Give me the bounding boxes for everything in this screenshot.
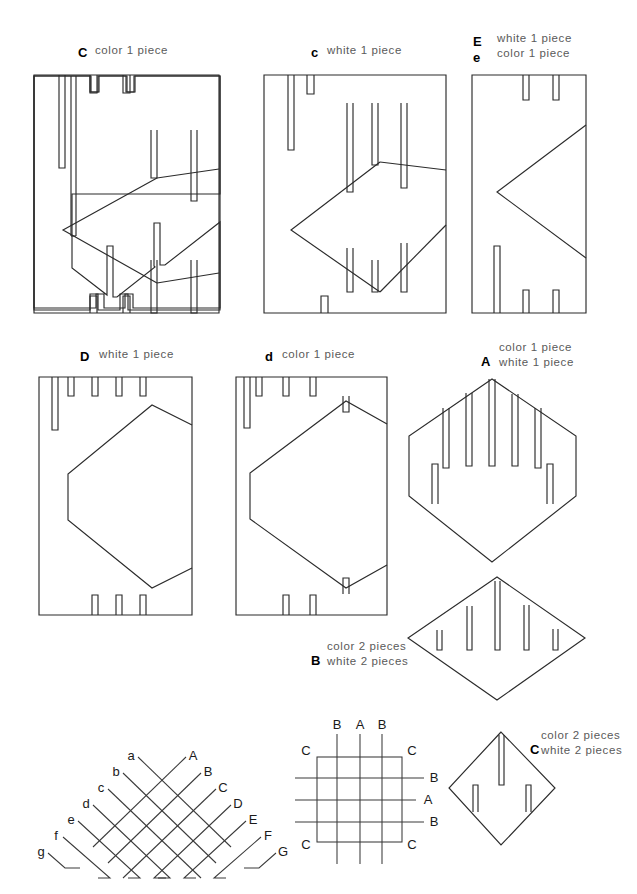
weave-label-a: a [127, 748, 135, 763]
weave-label-g: g [37, 844, 44, 859]
finished-grid-diagram: B A B C C C C B A B [285, 712, 445, 887]
piece-key-B: B [311, 653, 320, 668]
piece-key-c-lower: c [311, 45, 318, 60]
piece-key-C-upper: C [78, 45, 87, 60]
piece-key-e: e [473, 50, 480, 65]
piece-key-E: E [473, 34, 482, 49]
piece-spec-B-2: white 2 pieces [327, 655, 408, 669]
grid-right-label-1: B [430, 770, 439, 785]
piece-E-e [468, 70, 603, 318]
weave-label-A: A [189, 748, 198, 763]
piece-B [402, 572, 602, 702]
weave-assembly-diagram: a b c d e f g A B C D E F G [20, 735, 300, 885]
weave-label-B: B [204, 764, 213, 779]
grid-corner-label-bl: C [301, 837, 310, 852]
grid-corner-label-tl: C [301, 743, 310, 758]
piece-spec-e: color 1 piece [497, 47, 570, 61]
weave-label-D: D [233, 796, 242, 811]
grid-right-label-3: B [430, 814, 439, 829]
piece-spec-C-upper: color 1 piece [95, 44, 168, 58]
weave-label-e: e [67, 812, 74, 827]
grid-top-label-2: A [356, 717, 365, 732]
piece-key-d: d [265, 349, 273, 364]
grid-top-label-1: B [333, 717, 342, 732]
weave-label-d: d [82, 796, 89, 811]
piece-key-A: A [481, 354, 490, 369]
grid-corner-label-tr: C [407, 743, 416, 758]
piece-spec-A-2: white 1 piece [499, 356, 574, 370]
piece-spec-c-lower: white 1 piece [327, 44, 402, 58]
piece-C-small [443, 727, 563, 857]
piece-D [35, 372, 205, 620]
weave-label-F: F [264, 828, 272, 843]
piece-spec-D: white 1 piece [99, 348, 174, 362]
grid-top-label-3: B [378, 717, 387, 732]
weave-label-b: b [112, 764, 119, 779]
weave-label-E: E [249, 812, 258, 827]
weave-label-f: f [54, 828, 58, 843]
piece-spec-d: color 1 piece [282, 348, 355, 362]
weave-label-c: c [98, 780, 105, 795]
grid-right-label-2: A [424, 792, 433, 807]
pattern-sheet: C color 1 piece [0, 0, 637, 894]
piece-d [232, 372, 402, 620]
piece-spec-A-1: color 1 piece [499, 341, 572, 355]
piece-spec-E: white 1 piece [497, 32, 572, 46]
piece-c-lower [260, 70, 460, 318]
piece-A [404, 374, 604, 569]
piece-C-upper [30, 70, 230, 318]
piece-spec-B-1: color 2 pieces [327, 640, 406, 654]
grid-corner-label-br: C [407, 837, 416, 852]
piece-key-D: D [80, 349, 89, 364]
weave-label-C: C [218, 780, 227, 795]
